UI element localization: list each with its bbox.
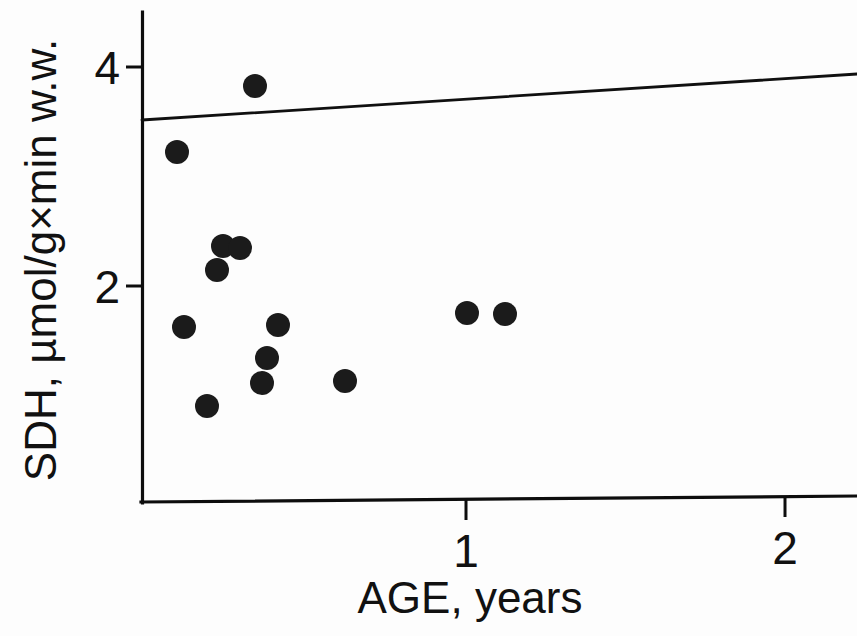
data-point: [493, 302, 517, 326]
chart-figure: 4 2 1 2 SDH, µmol/g×min w.w. AGE, years: [0, 0, 857, 636]
x-tick-label-1: 1: [453, 525, 479, 577]
data-point: [172, 315, 196, 339]
data-point: [243, 74, 267, 98]
data-point: [205, 258, 229, 282]
data-point: [228, 236, 252, 260]
x-axis-title: AGE, years: [358, 573, 583, 622]
data-point: [266, 313, 290, 337]
plot-background: [0, 0, 857, 636]
data-point: [255, 346, 279, 370]
y-tick-label-2: 2: [94, 261, 120, 313]
x-tick-label-2: 2: [772, 522, 798, 574]
data-point: [250, 371, 274, 395]
data-point: [165, 140, 189, 164]
data-point: [195, 394, 219, 418]
data-point: [455, 301, 479, 325]
data-point: [333, 369, 357, 393]
y-tick-label-4: 4: [94, 42, 120, 94]
scatter-plot-svg: 4 2 1 2 SDH, µmol/g×min w.w. AGE, years: [0, 0, 857, 636]
y-axis-title: SDH, µmol/g×min w.w.: [16, 39, 65, 481]
